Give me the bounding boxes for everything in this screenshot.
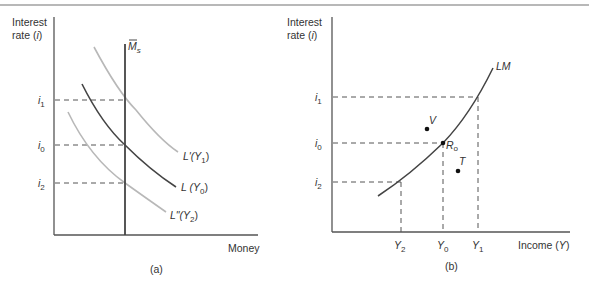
point-T — [456, 169, 461, 174]
panel-b-tick-i2: i2 — [315, 176, 322, 191]
panel-b-y-label-line2: rate (i) — [287, 29, 317, 41]
panel-a-tick-i2: i2 — [38, 177, 45, 192]
lm-curve — [378, 68, 493, 196]
panel-a-y-label-line1: Interest — [12, 16, 47, 28]
panel-a-caption: (a) — [150, 263, 163, 275]
panel-b-tick-i0: i0 — [315, 137, 322, 152]
panel-b-tick-Y2: Y2 — [394, 239, 406, 254]
panel-b-tick-i1: i1 — [315, 91, 322, 106]
curve-L-Y0 — [82, 84, 176, 187]
panel-b-x-label: Income (Y) — [518, 239, 569, 251]
point-V — [425, 127, 430, 132]
panel-b-lm-curve: Interest rate (i) i1 i0 i2 Y2 Y0 Y1 LM V… — [287, 16, 570, 272]
point-T-label: T — [459, 155, 467, 167]
panel-a-y-label-line2: rate (i) — [12, 29, 42, 41]
point-Ro — [441, 141, 446, 146]
panel-a-tick-i1: i1 — [38, 94, 45, 109]
panel-b-tick-Y1: Y1 — [472, 239, 484, 254]
panel-a-x-label: Money — [228, 242, 260, 254]
panel-b-y-label-line1: Interest — [287, 16, 322, 28]
lm-curve-label: LM — [496, 60, 511, 72]
point-V-label: V — [429, 114, 437, 126]
panel-a-money-market: Interest rate (i) i1 i0 i2 Ms L'(Y1) L (… — [12, 16, 260, 275]
point-Ro-label: Ro — [446, 139, 459, 153]
panel-b-caption: (b) — [445, 260, 458, 272]
curve-L-prime-Y1 — [94, 47, 178, 152]
label-L-double-prime-Y2: L"(Y2) — [170, 209, 198, 224]
label-L-Y0: L (Y0) — [181, 181, 208, 196]
panel-b-tick-Y0: Y0 — [437, 239, 449, 254]
money-market-lm-diagram: Interest rate (i) i1 i0 i2 Ms L'(Y1) L (… — [0, 0, 589, 281]
money-supply-label: Ms — [128, 40, 141, 55]
panel-a-tick-i0: i0 — [38, 139, 45, 154]
label-L-prime-Y1: L'(Y1) — [183, 150, 209, 165]
